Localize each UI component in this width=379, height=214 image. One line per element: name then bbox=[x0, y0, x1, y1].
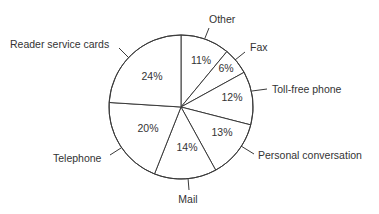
slice-percentage-reader-service-cards: 24% bbox=[141, 70, 162, 82]
pie-slices bbox=[109, 35, 253, 179]
slice-label-toll-free-phone: Toll-free phone bbox=[272, 83, 342, 95]
leader-line-toll-free-phone bbox=[252, 89, 267, 91]
slice-percentage-mail: 14% bbox=[176, 141, 197, 153]
slice-percentage-telephone: 20% bbox=[137, 122, 158, 134]
slice-label-fax: Fax bbox=[250, 41, 268, 53]
leader-line-reader-service-cards bbox=[119, 48, 129, 58]
leader-line-telephone bbox=[110, 148, 121, 155]
leader-line-fax bbox=[235, 52, 245, 60]
slice-label-other: Other bbox=[209, 13, 236, 25]
slice-label-mail: Mail bbox=[178, 193, 197, 205]
slice-percentage-toll-free-phone: 12% bbox=[221, 91, 242, 103]
leader-line-other bbox=[205, 28, 209, 38]
slice-label-reader-service-cards: Reader service cards bbox=[10, 38, 109, 50]
slice-percentage-fax: 6% bbox=[218, 62, 233, 74]
leader-line-personal-conversation bbox=[241, 146, 254, 154]
slice-label-personal-conversation: Personal conversation bbox=[258, 149, 362, 161]
pie-chart: 11%6%12%13%14%20%24% OtherFaxToll-free p… bbox=[0, 0, 379, 214]
slice-label-telephone: Telephone bbox=[53, 152, 102, 164]
slice-percentage-other: 11% bbox=[191, 54, 211, 66]
leader-line-mail bbox=[188, 178, 189, 190]
slice-percentage-personal-conversation: 13% bbox=[211, 126, 232, 138]
